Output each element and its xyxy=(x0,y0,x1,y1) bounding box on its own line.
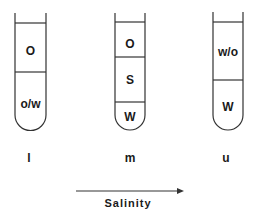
tube-u-phase-upper: w/o xyxy=(213,46,243,58)
tube-u-phase-lower: W xyxy=(213,101,243,113)
tube-m-phase-middle: S xyxy=(115,74,145,86)
tube-l-phase-upper: O xyxy=(15,45,46,57)
tube-l-phase-lower: o/w xyxy=(15,98,46,110)
tube-l xyxy=(15,13,46,131)
tube-l-label: l xyxy=(19,152,39,164)
salinity-axis-label: Salinity xyxy=(88,198,168,209)
tube-m-phase-upper: O xyxy=(115,38,145,50)
tube-m-label: m xyxy=(120,152,140,164)
tube-u-label: u xyxy=(216,152,236,164)
tube-m-phase-lower: W xyxy=(115,111,145,123)
arrowhead-icon xyxy=(177,188,184,194)
salinity-arrow xyxy=(76,188,184,194)
